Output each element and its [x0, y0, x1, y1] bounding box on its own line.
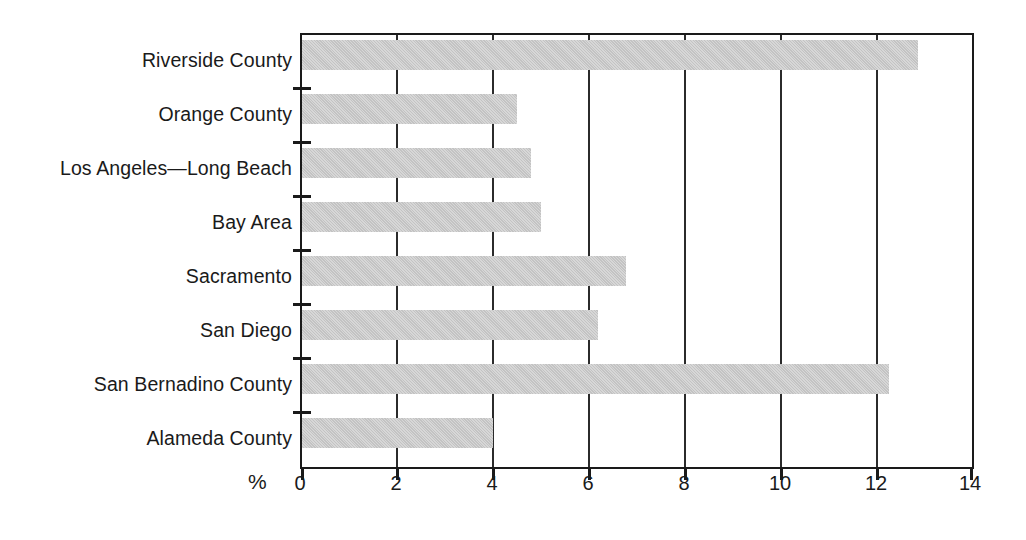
- x-tick-label-10: 10: [750, 472, 810, 495]
- y-axis-label-5: San Diego: [0, 303, 292, 357]
- y-axis-label-4: Sacramento: [0, 249, 292, 303]
- bar-row: [302, 87, 970, 141]
- bars-layer: [302, 33, 970, 465]
- y-axis-labels: Riverside County Orange County Los Angel…: [0, 33, 292, 465]
- bar-riverside-county: [302, 40, 918, 70]
- y-axis-label-3: Bay Area: [0, 195, 292, 249]
- y-axis-label-1: Orange County: [0, 87, 292, 141]
- x-tick-label-12: 12: [846, 472, 906, 495]
- bar-row: [302, 357, 970, 411]
- bar-san-diego: [302, 310, 598, 340]
- x-axis-unit-label: %: [248, 470, 267, 494]
- bar-row: [302, 195, 970, 249]
- x-tick-label-8: 8: [654, 472, 714, 495]
- bar-row: [302, 33, 970, 87]
- bar-row: [302, 411, 970, 465]
- x-tick-label-4: 4: [462, 472, 522, 495]
- bar-san-bernadino-county: [302, 364, 889, 394]
- y-axis-label-2: Los Angeles—Long Beach: [0, 141, 292, 195]
- bar-alameda-county: [302, 418, 493, 448]
- bar-row: [302, 303, 970, 357]
- x-tick-label-2: 2: [366, 472, 426, 495]
- bar-row: [302, 141, 970, 195]
- x-tick-label-0: 0: [270, 472, 330, 495]
- bar-bay-area: [302, 202, 541, 232]
- x-tick-label-6: 6: [558, 472, 618, 495]
- bar-sacramento: [302, 256, 626, 286]
- y-axis-label-6: San Bernadino County: [0, 357, 292, 411]
- y-axis-label-7: Alameda County: [0, 411, 292, 465]
- x-tick-label-14: 14: [940, 472, 1000, 495]
- bar-chart: Riverside County Orange County Los Angel…: [0, 0, 1026, 540]
- bar-row: [302, 249, 970, 303]
- bar-orange-county: [302, 94, 517, 124]
- y-axis-label-0: Riverside County: [0, 33, 292, 87]
- bar-los-angeles-long-beach: [302, 148, 531, 178]
